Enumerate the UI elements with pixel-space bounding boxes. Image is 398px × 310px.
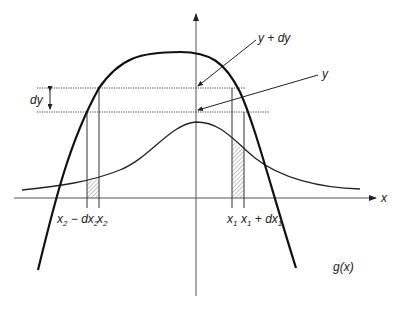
tick-x2-minus-dx2: x2 − dx2 [56, 212, 99, 228]
dy-label: dy [30, 93, 44, 107]
tick-x2: x2 [96, 212, 108, 228]
y-label: y [321, 67, 329, 81]
y-plus-dy-label: y + dy [257, 31, 291, 45]
left-hatched-area [87, 179, 99, 198]
diagram-canvas: dy y + dy y x g(x) x2 − dx2 x2 x1 x1 + d… [0, 0, 398, 310]
gx-label: g(x) [333, 260, 354, 274]
x-axis-label: x [380, 191, 388, 205]
gx-curve [38, 52, 296, 270]
leader-y-plus-dy [198, 40, 256, 86]
leader-y [198, 75, 318, 110]
tick-x1: x1 [226, 212, 237, 228]
density-curve [22, 122, 360, 190]
tick-x1-plus-dx1: x1 + dx1 [240, 212, 282, 228]
right-hatched-area [232, 141, 244, 198]
